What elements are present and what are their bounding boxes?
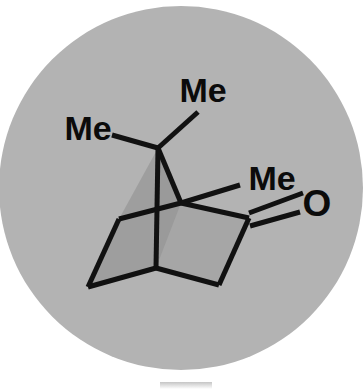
label-methyl-left: Me [64,109,111,147]
cropped-caption-smudge [160,382,212,389]
label-methyl-top: Me [179,71,226,109]
figure-root: Me Me Me O [0,0,363,391]
camphor-structure-svg: Me Me Me O [0,0,363,391]
label-oxygen: O [303,183,332,224]
label-methyl-right: Me [248,159,295,197]
